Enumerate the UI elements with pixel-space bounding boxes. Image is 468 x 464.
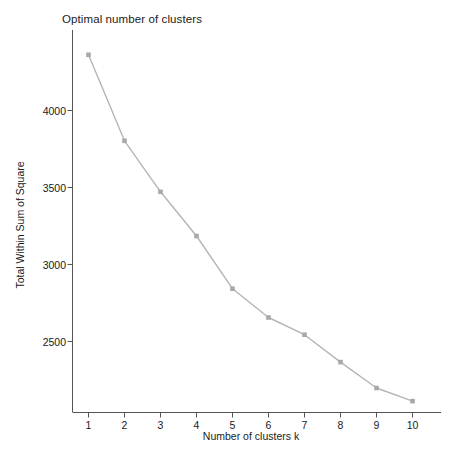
data-series-markers [86, 53, 415, 404]
x-tick-label: 7 [302, 419, 308, 431]
y-tick-marks [68, 111, 73, 342]
plot-area [0, 0, 468, 464]
x-axis-title: Number of clusters k [203, 430, 299, 442]
x-tick-label: 9 [374, 419, 380, 431]
x-tick-label: 2 [122, 419, 128, 431]
data-point-marker[interactable] [302, 332, 307, 337]
data-point-marker[interactable] [230, 286, 235, 291]
data-point-marker[interactable] [374, 386, 379, 391]
y-tick-label: 3000 [36, 259, 66, 271]
y-tick-label: 3500 [36, 182, 66, 194]
x-tick-label: 8 [338, 419, 344, 431]
y-tick-label: 2500 [36, 336, 66, 348]
data-point-marker[interactable] [266, 315, 271, 320]
data-point-marker[interactable] [86, 53, 91, 58]
x-tick-label: 3 [158, 419, 164, 431]
y-axis-title: Total Within Sum of Square [14, 161, 26, 288]
x-tick-label: 1 [86, 419, 92, 431]
data-point-marker[interactable] [410, 399, 415, 404]
data-point-marker[interactable] [194, 234, 199, 239]
chart-figure: Optimal number of clusters [0, 0, 468, 464]
data-point-marker[interactable] [158, 190, 163, 195]
data-point-marker[interactable] [122, 139, 127, 144]
x-tick-marks [89, 413, 413, 418]
data-series-line [89, 55, 413, 401]
y-tick-label: 4000 [36, 105, 66, 117]
data-point-marker[interactable] [338, 360, 343, 365]
x-tick-label: 4 [194, 419, 200, 431]
x-tick-label: 10 [407, 419, 419, 431]
